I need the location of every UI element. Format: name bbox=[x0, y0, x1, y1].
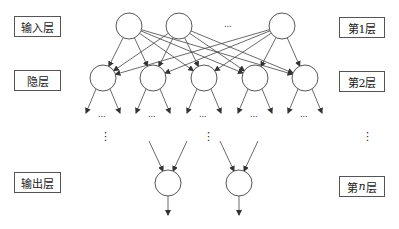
neuron-node bbox=[116, 13, 142, 39]
svg-text:...: ... bbox=[199, 110, 207, 119]
svg-text:⋮: ⋮ bbox=[362, 130, 373, 143]
neuron-node bbox=[269, 13, 295, 39]
layer-1-label: 第1层 bbox=[339, 17, 385, 38]
neuron-node bbox=[166, 13, 192, 39]
neuron-node bbox=[140, 65, 166, 91]
neuron-node bbox=[90, 65, 116, 91]
neuron-node bbox=[226, 170, 252, 196]
output-layer-label: 输出层 bbox=[14, 172, 61, 193]
layer-n-label: 第n层 bbox=[339, 176, 385, 197]
svg-text:...: ... bbox=[224, 20, 232, 29]
neuron-node bbox=[292, 65, 318, 91]
input-layer-label: 输入层 bbox=[14, 16, 61, 37]
svg-text:...: ... bbox=[98, 110, 106, 119]
svg-text:⋮: ⋮ bbox=[100, 130, 111, 143]
svg-text:...: ... bbox=[250, 110, 258, 119]
neuron-node bbox=[191, 65, 217, 91]
layer-2-label: 第2层 bbox=[339, 71, 385, 92]
svg-text:...: ... bbox=[300, 110, 308, 119]
svg-text:...: ... bbox=[148, 110, 156, 119]
neural-network-diagram: ...............⋮⋮⋮... 输入层 隐层 输出层 第1层 第2层… bbox=[0, 0, 399, 229]
neuron-node bbox=[155, 170, 181, 196]
hidden-layer-label: 隐层 bbox=[14, 70, 61, 91]
svg-text:⋮: ⋮ bbox=[203, 130, 214, 143]
neuron-node bbox=[242, 65, 268, 91]
